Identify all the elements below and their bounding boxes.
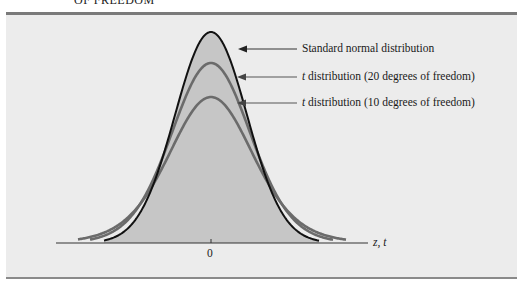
legend-label-normal: Standard normal distribution xyxy=(302,42,434,54)
arrow-normal xyxy=(238,46,297,53)
legend-label-t10: t distribution (10 degrees of freedom) xyxy=(302,96,475,108)
x-axis-label: z, t xyxy=(373,236,386,248)
arrow-t10 xyxy=(237,100,297,107)
arrow-t20 xyxy=(237,74,297,81)
distribution-chart xyxy=(0,0,523,282)
legend-label-t20: t distribution (20 degrees of freedom) xyxy=(302,70,475,82)
x-tick-zero: 0 xyxy=(207,247,213,259)
